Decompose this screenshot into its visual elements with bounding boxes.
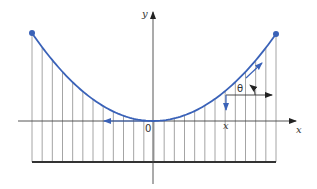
tangent-arrow	[246, 63, 262, 78]
right-endpoint	[273, 31, 279, 37]
left-endpoint	[29, 30, 35, 36]
x-axis-label: x	[296, 124, 302, 135]
origin-label: 0	[145, 123, 151, 134]
cable-diagram: y x 0 x θ	[0, 0, 317, 189]
hangers	[32, 33, 276, 162]
theta-label: θ	[237, 83, 243, 94]
diagram-canvas: y x 0 x θ	[0, 0, 317, 189]
point-x-label: x	[223, 120, 229, 131]
y-axis-label: y	[141, 8, 148, 19]
angle-arc	[250, 85, 255, 95]
cable-curve	[32, 33, 276, 121]
